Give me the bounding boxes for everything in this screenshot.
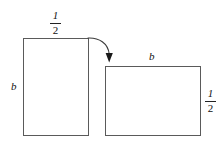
left-rectangle-width-label: 1 2 <box>50 10 61 36</box>
fraction-denominator: 2 <box>52 24 60 36</box>
right-rectangle <box>105 66 201 136</box>
fraction-denominator: 2 <box>207 102 215 114</box>
fraction-numerator: 1 <box>52 10 60 22</box>
left-rectangle-height-label: b <box>11 81 17 92</box>
right-rectangle-height-label: 1 2 <box>205 88 216 114</box>
fraction-numerator: 1 <box>207 88 215 100</box>
geometry-diagram: 1 2 b b 1 2 <box>0 0 221 152</box>
curved-arrow-icon <box>86 32 120 66</box>
left-rectangle <box>23 38 89 136</box>
right-rectangle-width-label: b <box>149 51 155 62</box>
